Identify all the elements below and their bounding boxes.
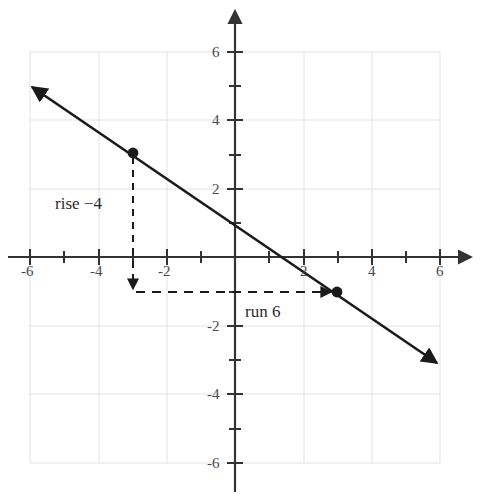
x-tick-label-6: 6 <box>436 264 444 279</box>
x-tick-label-2: 2 <box>300 264 308 279</box>
data-point <box>128 148 139 159</box>
x-tick-label-4: 4 <box>368 264 376 279</box>
y-tick-label-6: 6 <box>212 45 220 60</box>
graph-canvas: -6 -4 -2 2 4 6 6 4 2 -2 -4 -6 rise −4 ru… <box>0 0 482 500</box>
y-tick-label-neg2: -2 <box>207 319 220 334</box>
x-tick-label-neg4: -4 <box>90 264 103 279</box>
data-point <box>332 287 343 298</box>
rise-annotation-label: rise −4 <box>55 195 102 212</box>
y-tick-label-4: 4 <box>212 113 220 128</box>
y-axis <box>227 12 243 492</box>
coordinate-plane <box>0 0 482 500</box>
y-tick-label-neg6: -6 <box>207 456 220 471</box>
y-tick-label-2: 2 <box>212 182 220 197</box>
x-axis <box>8 249 470 265</box>
x-tick-label-neg2: -2 <box>158 264 171 279</box>
x-tick-label-neg6: -6 <box>21 264 34 279</box>
y-tick-label-neg4: -4 <box>207 387 220 402</box>
run-annotation-label: run 6 <box>245 303 280 320</box>
